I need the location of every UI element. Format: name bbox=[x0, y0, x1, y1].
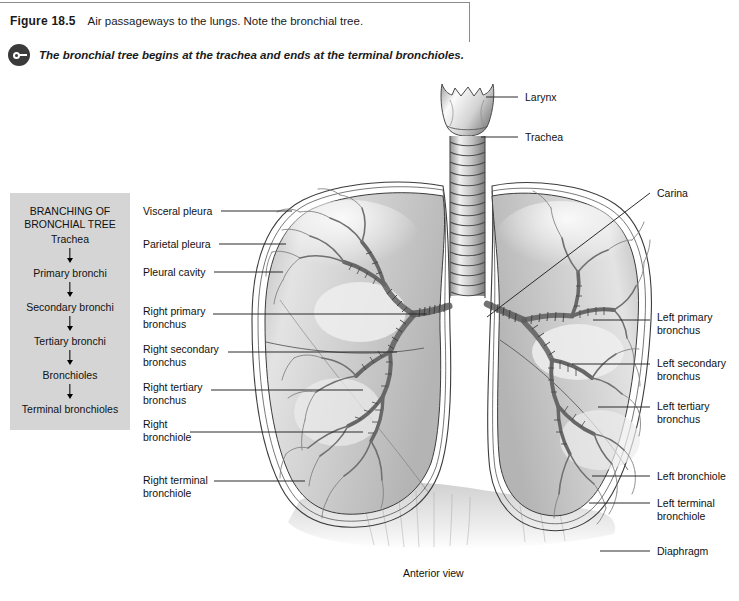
branching-box-title-line2: BRONCHIAL TREE bbox=[10, 218, 130, 231]
right-primary-bronchus bbox=[413, 303, 449, 317]
key-note: The bronchial tree begins at the trachea… bbox=[8, 44, 464, 66]
flow-arrow bbox=[10, 280, 130, 299]
figure-caption: Figure 18.5Air passageways to the lungs.… bbox=[10, 14, 363, 28]
diaphragm-shape bbox=[288, 483, 615, 549]
anatomy-label: Diaphragm bbox=[657, 545, 708, 558]
anatomy-label: Right primary bronchus bbox=[143, 305, 205, 330]
trachea-shape bbox=[450, 136, 485, 298]
left-terminal-bronchioles bbox=[533, 191, 650, 524]
anatomy-label: Right terminal bronchiole bbox=[143, 474, 208, 499]
anatomy-label: Larynx bbox=[525, 91, 557, 104]
right-lung-shape bbox=[252, 182, 451, 527]
anatomy-label: Trachea bbox=[525, 131, 563, 144]
left-primary-bronchus bbox=[487, 302, 524, 322]
anatomy-label: Right secondary bronchus bbox=[143, 343, 219, 368]
flow-step: Trachea bbox=[10, 233, 130, 246]
right-tertiary-bronchi bbox=[344, 242, 392, 441]
figure-number: Figure 18.5 bbox=[10, 14, 76, 28]
anatomy-label: Left primary bronchus bbox=[657, 311, 712, 336]
figure-caption-text: Air passageways to the lungs. Note the b… bbox=[88, 15, 364, 27]
flow-arrow bbox=[10, 382, 130, 401]
anatomy-label: Left terminal bronchiole bbox=[657, 497, 715, 522]
anatomy-label: Left tertiary bronchus bbox=[657, 400, 710, 425]
leader-lines bbox=[190, 97, 650, 551]
left-secondary-bronchi bbox=[524, 312, 572, 360]
branching-of-bronchial-tree-box: BRANCHING OF BRONCHIAL TREE TracheaPrima… bbox=[10, 193, 130, 430]
anatomy-label: Right bronchiole bbox=[143, 418, 191, 443]
leader-line bbox=[487, 193, 650, 317]
left-tertiary-bronchi bbox=[548, 272, 614, 454]
flow-step: Primary bronchi bbox=[10, 267, 130, 280]
anatomy-label: Left bronchiole bbox=[657, 470, 726, 483]
anatomy-label: Visceral pleura bbox=[143, 205, 212, 218]
flow-step: Secondary bronchi bbox=[10, 301, 130, 314]
anatomy-label: Left secondary bronchus bbox=[657, 357, 726, 382]
left-bronchioles bbox=[559, 238, 636, 494]
branching-box-title-line1: BRANCHING OF bbox=[10, 205, 130, 218]
flow-step: Tertiary bronchi bbox=[10, 335, 130, 348]
right-secondary-bronchi bbox=[384, 284, 413, 352]
anatomy-label: Pleural cavity bbox=[143, 266, 205, 279]
anatomy-label: Parietal pleura bbox=[143, 238, 211, 251]
anatomy-label: Right tertiary bronchus bbox=[143, 381, 203, 406]
branching-box-title: BRANCHING OF BRONCHIAL TREE bbox=[10, 205, 130, 231]
flow-arrow bbox=[10, 314, 130, 333]
right-bronchioles bbox=[300, 208, 382, 480]
key-icon bbox=[8, 44, 30, 66]
anatomy-label: Carina bbox=[657, 187, 688, 200]
flow-arrow bbox=[10, 348, 130, 367]
flow-step: Bronchioles bbox=[10, 369, 130, 382]
figure-header: Figure 18.5Air passageways to the lungs.… bbox=[0, 0, 739, 80]
flow-arrow bbox=[10, 246, 130, 265]
branching-flow-list: TracheaPrimary bronchiSecondary bronchiT… bbox=[10, 233, 130, 416]
right-terminal-bronchioles bbox=[266, 189, 383, 518]
anterior-view-caption: Anterior view bbox=[403, 567, 464, 579]
larynx-shape bbox=[441, 84, 494, 136]
key-note-text: The bronchial tree begins at the trachea… bbox=[39, 49, 464, 61]
flow-step: Terminal bronchioles bbox=[10, 403, 130, 416]
left-lung-shape bbox=[487, 183, 651, 531]
